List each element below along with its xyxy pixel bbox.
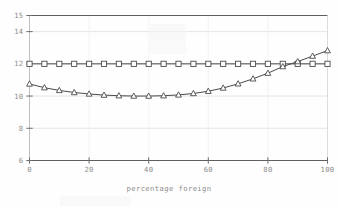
y-tick-label: 8 bbox=[19, 124, 24, 133]
y-tick-label: 14 bbox=[14, 27, 23, 36]
y-tick-label: 12 bbox=[14, 59, 23, 68]
x-tick-label: 0 bbox=[27, 165, 32, 174]
marker-square bbox=[161, 61, 166, 66]
x-tick-label: 100 bbox=[321, 165, 335, 174]
y-tick-label: 15 bbox=[14, 11, 23, 20]
x-axis-tick-labels: 020406080100 bbox=[27, 165, 334, 174]
marker-square bbox=[146, 61, 151, 66]
marker-square bbox=[206, 61, 211, 66]
marker-square bbox=[27, 61, 32, 66]
gridlines-group bbox=[30, 16, 328, 161]
marker-square bbox=[116, 61, 121, 66]
x-tick-label: 20 bbox=[84, 165, 93, 174]
marker-square bbox=[191, 61, 196, 66]
marker-square bbox=[72, 61, 77, 66]
marker-square bbox=[310, 61, 315, 66]
x-tick-label: 60 bbox=[204, 165, 213, 174]
marker-square bbox=[250, 61, 255, 66]
marker-square bbox=[131, 61, 136, 66]
marker-square bbox=[236, 61, 241, 66]
x-tick-label: 80 bbox=[263, 165, 272, 174]
marker-square bbox=[87, 61, 92, 66]
marker-square bbox=[221, 61, 226, 66]
plot-frame bbox=[30, 16, 328, 161]
marker-triangle bbox=[27, 81, 33, 86]
x-axis-title: percentage foreign bbox=[126, 184, 211, 193]
y-tick-label: 6 bbox=[19, 156, 24, 165]
series-curved-response bbox=[27, 48, 331, 99]
marker-square bbox=[265, 61, 270, 66]
marker-square bbox=[57, 61, 62, 66]
chart-canvas: 6810121415 020406080100 percentage forei… bbox=[0, 0, 339, 210]
y-axis-tick-labels: 6810121415 bbox=[14, 11, 23, 165]
chart-figure: 6810121415 020406080100 percentage forei… bbox=[0, 0, 339, 210]
marker-square bbox=[42, 61, 47, 66]
x-tick-label: 40 bbox=[144, 165, 153, 174]
marker-square bbox=[325, 61, 330, 66]
marker-triangle bbox=[325, 48, 331, 53]
y-tick-label: 10 bbox=[14, 92, 23, 101]
marker-square bbox=[176, 61, 181, 66]
marker-square bbox=[101, 61, 106, 66]
